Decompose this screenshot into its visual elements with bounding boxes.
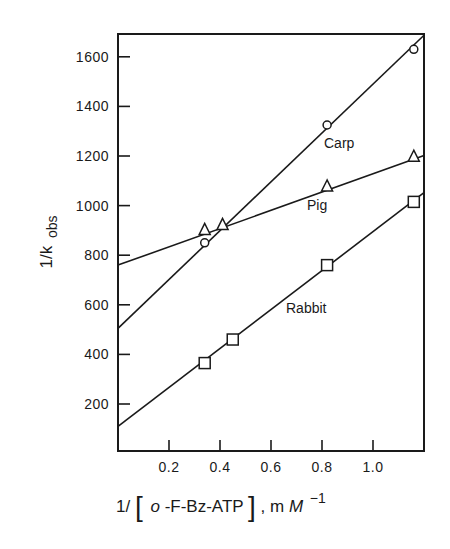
data-point-rabbit (199, 358, 210, 369)
series-labels: Carp Pig Rabbit (286, 135, 355, 316)
y-tick-label: 1600 (76, 49, 109, 65)
data-point-rabbit (227, 334, 238, 345)
x-axis-bracket-open: [ (135, 491, 143, 522)
plot-frame (118, 34, 424, 451)
x-axis-title-exponent: −1 (310, 490, 326, 506)
x-axis-title-prefix: 1/ (116, 497, 130, 516)
y-axis-ticks: 2004006008001000120014001600 (76, 49, 130, 412)
y-tick-label: 800 (84, 247, 109, 263)
x-axis-title-compound: -F-Bz-ATP (165, 497, 244, 516)
y-axis-title: 1/k obs (37, 216, 60, 269)
svg-text:1/ [ o -F-B: 1/ [ o -F-Bz-ATP ] , m M −1 (116, 490, 326, 522)
y-tick-label: 1400 (76, 98, 109, 114)
y-tick-label: 1200 (76, 148, 109, 164)
x-axis-title-M: M (289, 497, 304, 516)
data-point-rabbit (322, 260, 333, 271)
x-tick-label: 0.4 (210, 459, 231, 475)
x-axis-bracket-close: ] (248, 491, 256, 522)
data-point-pig (408, 150, 419, 161)
series-label-carp: Carp (324, 135, 355, 151)
y-axis-title-main: 1/k (37, 245, 56, 268)
x-axis-title-units: , m (261, 497, 285, 516)
data-point-carp (201, 239, 209, 247)
svg-text:1/k obs: 1/k obs (37, 216, 60, 269)
x-axis-ticks: 0.20.40.60.81.0 (159, 440, 384, 475)
x-tick-label: 0.6 (261, 459, 282, 475)
y-tick-label: 200 (84, 396, 109, 412)
line-chart: 2004006008001000120014001600 0.20.40.60.… (0, 0, 450, 549)
data-point-pig (322, 180, 333, 191)
data-point-carp (410, 45, 418, 53)
data-point-carp (323, 121, 331, 129)
x-axis-title-italic-o: o (150, 497, 159, 516)
x-tick-label: 1.0 (363, 459, 384, 475)
y-tick-label: 400 (84, 346, 109, 362)
y-axis-title-subscript: obs (44, 216, 60, 239)
y-tick-label: 1000 (76, 198, 109, 214)
x-tick-label: 0.2 (159, 459, 180, 475)
data-point-pig (199, 223, 210, 234)
fit-line-carp (118, 35, 424, 328)
y-tick-label: 600 (84, 297, 109, 313)
x-axis-title: 1/ [ o -F-Bz-ATP ] , m M −1 (116, 490, 326, 522)
fit-line-rabbit (118, 193, 424, 427)
series-label-pig: Pig (307, 197, 327, 213)
x-tick-label: 0.8 (312, 459, 333, 475)
series-label-rabbit: Rabbit (286, 300, 327, 316)
fit-lines (118, 35, 424, 426)
data-point-rabbit (408, 196, 419, 207)
fit-line-pig (118, 156, 424, 266)
